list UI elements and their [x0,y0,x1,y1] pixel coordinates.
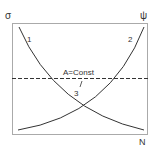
intersection-label: 3 [74,89,79,98]
constant-line-label: A=Const [63,68,95,77]
leader-line [80,81,82,87]
curve-2-label: 2 [128,35,133,44]
n-axis-label: N [139,137,146,147]
diagram-canvas: σ ψ N 1 2 A=Const 3 [0,0,157,147]
curve-1-label: 1 [27,35,32,44]
psi-axis-label: ψ [140,10,147,21]
sigma-axis-label: σ [5,10,12,21]
